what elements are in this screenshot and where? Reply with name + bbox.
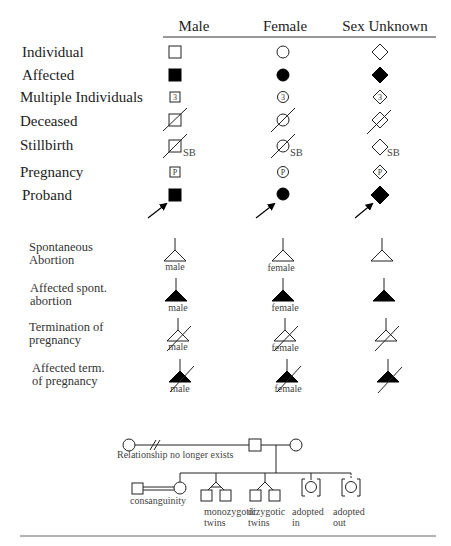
svg-text:SB: SB [183, 147, 196, 158]
female-affected-icon [277, 69, 289, 81]
male-affected-spont-abortion-icon: male [165, 278, 188, 313]
svg-text:SB: SB [290, 147, 303, 158]
adopted-in-label-line1: adopted [292, 506, 324, 517]
header-female: Female [263, 18, 307, 34]
row-label-multiple: Multiple Individuals [20, 89, 143, 105]
male-affected-termination-icon: male [169, 359, 194, 394]
male-affected-icon [169, 69, 181, 81]
adopted-in-label-line2: in [292, 517, 300, 528]
male-individual-icon [169, 46, 181, 58]
mother-female-icon [290, 439, 302, 451]
unknown-multiple-icon: 3 [373, 90, 387, 104]
svg-text:P: P [378, 168, 383, 177]
consanguinity-female-icon [174, 482, 186, 494]
female-affected-spont-abortion-icon: female [271, 278, 299, 313]
row-labels: Individual Affected Multiple Individuals… [20, 44, 143, 203]
female-spont-abortion-icon: female [267, 238, 295, 273]
abortion-row-labels: Spontaneous Abortion Affected spont. abo… [29, 240, 107, 388]
adopted-out-bracket-left [342, 479, 345, 496]
male-proband-icon [148, 189, 181, 218]
female-termination-icon: female [271, 318, 299, 353]
label-affected-spont-line2: abortion [30, 294, 72, 308]
svg-text:female: female [271, 302, 299, 313]
header-sex-unknown: Sex Unknown [342, 18, 428, 34]
female-deceased-icon [271, 108, 295, 132]
consanguinity-male-icon [132, 483, 143, 494]
svg-text:SB: SB [387, 147, 400, 158]
label-termination-line1: Termination of [29, 320, 104, 334]
label-affected-term-line2: of pregnancy [32, 374, 98, 388]
female-individual-icon [277, 46, 289, 58]
male-pregnancy-icon: P [170, 167, 180, 177]
unknown-pregnancy-icon: P [373, 165, 387, 179]
adopted-out-icon [346, 482, 357, 493]
column-headers: Male Female Sex Unknown [163, 18, 436, 37]
unknown-individual-icon [372, 44, 388, 60]
dizygotic-twin-1-icon [250, 490, 261, 501]
female-proband-icon [256, 188, 289, 218]
row-label-deceased: Deceased [20, 113, 78, 129]
male-multiple-icon: 3 [170, 92, 180, 102]
male-termination-icon: male [167, 318, 191, 352]
arrow-icon [256, 204, 274, 218]
svg-text:female: female [274, 383, 302, 394]
row-label-stillbirth: Stillbirth [20, 137, 74, 153]
consanguinity-label: consanguinity [130, 495, 186, 506]
svg-text:3: 3 [378, 93, 382, 102]
label-affected-term-line1: Affected term. [32, 361, 105, 375]
row-label-affected: Affected [22, 67, 75, 83]
unknown-spont-abortion-icon [371, 238, 393, 261]
label-spontaneous-line2: Abortion [29, 253, 75, 267]
male-stillbirth-icon: SB [163, 134, 196, 158]
dizygotic-twin-2-icon [269, 490, 280, 501]
male-deceased-icon [163, 108, 187, 131]
female-multiple-icon: 3 [278, 92, 289, 103]
svg-text:P: P [281, 168, 286, 177]
unknown-termination-icon [375, 318, 399, 351]
unknown-affected-termination-icon [377, 359, 402, 393]
female-pregnancy-icon: P [278, 167, 289, 178]
label-spontaneous-line1: Spontaneous [29, 240, 93, 254]
label-termination-line2: pregnancy [29, 333, 82, 347]
dizygotic-label-line1: dizygotic [248, 506, 286, 517]
adopted-out-label-line1: adopted [333, 506, 365, 517]
svg-text:3: 3 [281, 93, 285, 102]
adopted-bracket-left [302, 479, 305, 496]
adopted-in-icon [306, 482, 317, 493]
header-male: Male [179, 18, 210, 34]
dizygotic-label-line2: twins [248, 517, 270, 528]
adopted-bracket-right [317, 479, 320, 496]
unknown-affected-spont-abortion-icon [373, 278, 395, 301]
male-spont-abortion-icon: male [164, 238, 186, 272]
svg-text:male: male [168, 302, 188, 313]
monozygotic-twin-2-icon [220, 490, 231, 501]
unknown-proband-icon [355, 186, 389, 218]
arrow-icon [148, 204, 166, 218]
adopted-out-label-line2: out [333, 517, 346, 528]
monozygotic-label-line2: twins [204, 517, 226, 528]
row-label-individual: Individual [22, 44, 84, 60]
monozygotic-twin-1-icon [201, 490, 212, 501]
row-label-pregnancy: Pregnancy [20, 164, 84, 180]
pedigree-example: Relationship no longer exists consanguin… [117, 439, 365, 528]
unknown-deceased-icon [367, 110, 391, 134]
svg-text:3: 3 [173, 93, 177, 102]
female-stillbirth-icon: SB [271, 134, 303, 158]
relationship-no-longer-exists-label: Relationship no longer exists [117, 449, 233, 460]
pedigree-symbol-legend: Male Female Sex Unknown Individual Affec… [0, 0, 451, 546]
label-affected-spont-line1: Affected spont. [30, 281, 107, 295]
svg-text:female: female [271, 342, 299, 353]
arrow-icon [355, 204, 372, 218]
female-affected-termination-icon: female [274, 359, 302, 394]
father-male-icon [249, 439, 261, 451]
unknown-affected-icon [372, 67, 388, 83]
unknown-stillbirth-icon: SB [372, 139, 400, 158]
adopted-out-bracket-right [357, 479, 360, 496]
svg-text:P: P [173, 168, 178, 177]
svg-text:male: male [165, 261, 185, 272]
svg-text:female: female [267, 262, 295, 273]
row-label-proband: Proband [22, 187, 72, 203]
